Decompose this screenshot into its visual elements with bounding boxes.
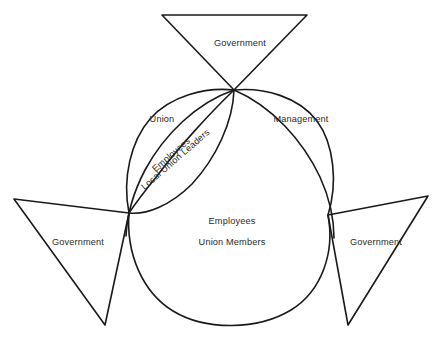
oval-bottom-shape xyxy=(129,213,330,326)
lobe-left-union-label: Union xyxy=(150,115,175,125)
triangle-top-label: Government xyxy=(214,39,266,49)
triangle-top-shape xyxy=(162,15,307,90)
triangle-right-shape xyxy=(328,196,428,325)
lobe-right-management-shape xyxy=(234,89,333,215)
triangle-left-shape xyxy=(14,199,129,325)
diagram-canvas xyxy=(0,0,442,339)
triangle-left-label: Government xyxy=(52,238,104,248)
diagram-figure: Government Government Government Union M… xyxy=(0,0,442,339)
oval-bottom-label-line1: Employees xyxy=(209,217,256,227)
oval-bottom-label-line2: Union Members xyxy=(199,238,266,248)
triangle-right-label: Government xyxy=(350,238,402,248)
lobe-right-management-label: Management xyxy=(273,115,328,125)
